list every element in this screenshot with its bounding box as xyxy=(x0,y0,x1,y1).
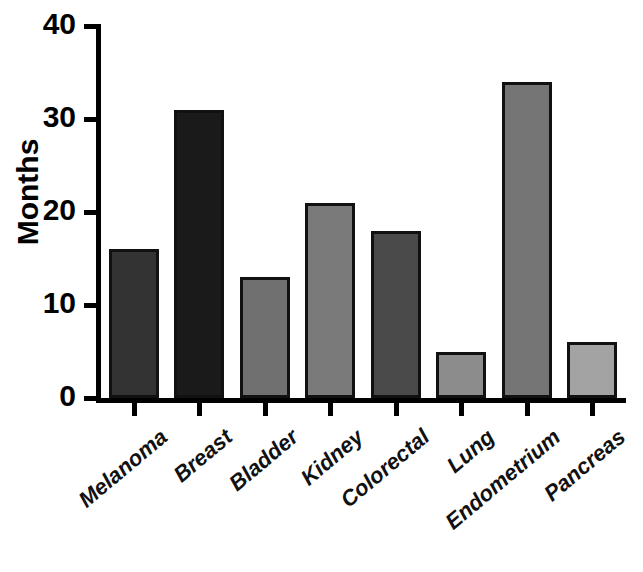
y-tick-label: 20 xyxy=(6,195,76,225)
bar-kidney xyxy=(305,203,355,398)
x-tick-mark xyxy=(132,403,137,416)
x-tick-mark xyxy=(197,403,202,416)
x-tick-mark xyxy=(590,403,595,416)
bar-endometrium xyxy=(502,82,552,398)
y-tick-mark xyxy=(84,210,97,215)
y-tick-mark xyxy=(84,117,97,122)
x-tick-mark xyxy=(263,403,268,416)
x-tick-mark xyxy=(394,403,399,416)
bar-pancreas xyxy=(567,342,617,398)
y-tick-mark xyxy=(84,303,97,308)
bar-lung xyxy=(436,352,486,399)
y-tick-mark xyxy=(84,24,97,29)
x-tick-mark xyxy=(525,403,530,416)
y-axis-title: Months xyxy=(11,112,45,272)
bar-melanoma xyxy=(109,249,159,398)
x-axis-line xyxy=(96,398,626,403)
x-tick-mark xyxy=(328,403,333,416)
y-tick-label: 40 xyxy=(6,9,76,39)
y-tick-label: 10 xyxy=(6,288,76,318)
bar-colorectal xyxy=(371,231,421,398)
y-tick-label: 30 xyxy=(6,102,76,132)
x-tick-mark xyxy=(459,403,464,416)
y-tick-label: 0 xyxy=(6,381,76,411)
bar-chart: Months 010203040 MelanomaBreastBladderKi… xyxy=(0,0,643,572)
bar-bladder xyxy=(240,277,290,398)
bar-breast xyxy=(174,110,224,398)
